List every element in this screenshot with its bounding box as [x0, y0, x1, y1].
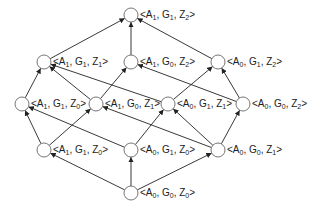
- node-label: <A1, G1, Z0>: [31, 98, 86, 110]
- lattice-node: [89, 97, 103, 111]
- lattice-node: [124, 55, 138, 69]
- node-label: <A0, G0, Z0>: [140, 187, 195, 199]
- edge-arrow: [25, 68, 41, 98]
- edge-arrow: [28, 107, 124, 148]
- edge-arrow: [138, 64, 237, 101]
- lattice-node: [37, 143, 51, 157]
- node-label: <A1, G0, Z1>: [105, 98, 160, 110]
- edge-arrow: [173, 109, 213, 146]
- edge-arrow: [221, 110, 239, 144]
- edge-arrow: [50, 18, 125, 58]
- edge-arrow: [137, 153, 211, 190]
- lattice-node: [15, 97, 29, 111]
- node-label: <A1, G1, Z2>: [140, 9, 195, 21]
- lattice-node: [124, 8, 138, 22]
- edge-arrow: [103, 106, 212, 147]
- edge-arrow: [222, 68, 240, 98]
- node-label: <A0, G0, Z2>: [252, 98, 307, 110]
- node-label: <A0, G1, Z0>: [140, 144, 195, 156]
- edge-arrow: [25, 110, 41, 143]
- edge-arrow: [50, 153, 124, 190]
- lattice-node: [211, 55, 225, 69]
- lattice-node: [124, 186, 138, 200]
- edge-arrow: [49, 109, 91, 146]
- lattice-node: [211, 143, 225, 157]
- edge-arrow: [135, 109, 163, 144]
- edge-arrow: [173, 67, 212, 100]
- edge-arrow: [100, 67, 126, 98]
- lattice-node: [161, 97, 175, 111]
- lattice-node: [37, 55, 51, 69]
- node-label: <A1, G0, Z2>: [140, 56, 195, 68]
- edge-arrow: [137, 18, 212, 58]
- lattice-node: [236, 97, 250, 111]
- node-label: <A1, G1, Z1>: [53, 56, 108, 68]
- node-label: <A0, G1, Z1>: [177, 98, 232, 110]
- lattice-node: [124, 143, 138, 157]
- edge-arrow: [51, 64, 162, 102]
- edge-arrow: [49, 66, 90, 99]
- node-label: <A0, G1, Z2>: [227, 56, 282, 68]
- node-label: <A0, G0, Z1>: [227, 144, 282, 156]
- node-label: <A1, G1, Z0>: [53, 144, 108, 156]
